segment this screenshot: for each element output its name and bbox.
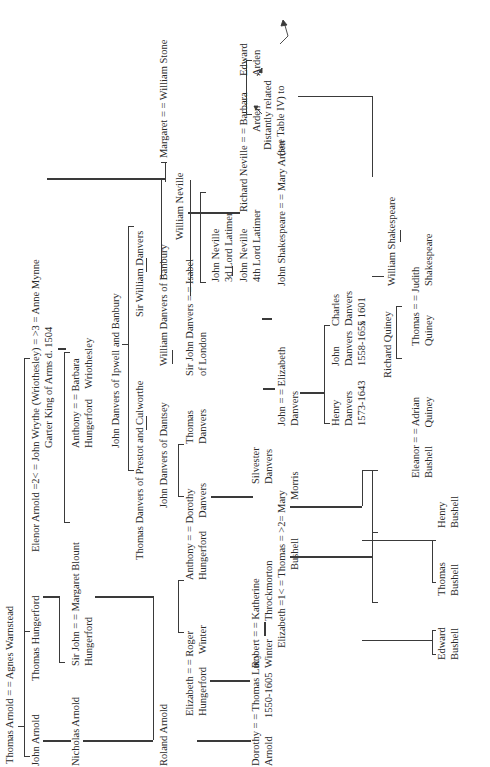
connector <box>372 276 384 277</box>
node-richard-quiney: Richard Quiney <box>382 311 395 378</box>
sibling-bracket <box>396 306 397 358</box>
node-henry-danvers-dates: 1573-1643 <box>356 381 369 427</box>
sibling-bracket <box>324 325 325 423</box>
node-thomas-bushell-surname: Bushell <box>289 538 302 570</box>
connector <box>396 306 402 307</box>
node-charles-danvers: Charles <box>330 294 343 326</box>
connector <box>362 470 378 471</box>
arrow-icons <box>0 0 490 767</box>
sibling-bracket <box>432 630 433 654</box>
connector <box>432 582 436 583</box>
node-henry-bushell-surname: Bushell <box>449 496 462 528</box>
connector <box>290 506 362 508</box>
node-thomas-bushell: Thomas <box>436 562 449 596</box>
node-henry-bushell: Henry <box>436 502 449 528</box>
sibling-bracket <box>432 540 433 582</box>
node-henry-danvers: Henry <box>330 400 343 426</box>
node-mary-morris-surname: Morris <box>289 471 302 500</box>
node-thomas-quiney-judith: Thomas = = Judith <box>410 267 423 346</box>
connector <box>362 640 432 641</box>
node-john-shakespeare-mary-arden: John Shakespeare = = Mary Arden <box>276 140 289 286</box>
connector <box>372 602 378 603</box>
node-judith-shakespeare: Shakespeare <box>423 234 436 286</box>
connector <box>362 540 432 541</box>
connector <box>372 96 373 176</box>
sibling-bracket <box>372 532 373 602</box>
node-thomas-quiney-surname: Quiney <box>423 315 436 346</box>
node-john-danvers-dates: 1558-1655 <box>356 321 369 367</box>
node-charles-danvers-note: x 1601 <box>356 297 369 326</box>
node-john-danvers-surname: Danvers <box>289 391 302 426</box>
node-william-shakespeare: William Shakespeare <box>386 197 399 286</box>
connector <box>290 556 372 558</box>
node-john-danvers-elizabeth: John = = Elizabeth <box>276 347 289 426</box>
sibling-bracket <box>362 470 363 506</box>
connector <box>400 230 401 242</box>
connector <box>396 358 402 359</box>
genealogy-diagram: Thomas Arnold = = Agnes Warnstead John A… <box>0 0 490 767</box>
connector <box>300 392 324 394</box>
node-henry-danvers-surname: Danvers <box>343 391 356 426</box>
node-edward-bushell: Edward <box>436 627 449 660</box>
connector <box>372 176 373 177</box>
connector <box>372 532 378 533</box>
connector <box>432 540 436 541</box>
node-elizabeth-thomas-bushell-mary-morris: Elizabeth =1< = Thomas = >2= Mary <box>276 490 289 648</box>
node-edward-bushell-surname: Bushell <box>449 628 462 660</box>
node-eleanor-adrian-surnames: Bushell Quiney <box>423 397 436 478</box>
connector <box>432 654 436 655</box>
node-eleanor-bushell-adrian-quiney: Eleanor = = Adrian <box>410 397 423 478</box>
connector <box>432 630 436 631</box>
node-john-danvers: John <box>330 346 343 366</box>
node-charles-danvers-surname: Danvers <box>343 291 356 326</box>
connector <box>298 96 372 97</box>
node-john-danvers-surname-2: Danvers <box>343 331 356 366</box>
node-thomas-bushell-surname-2: Bushell <box>449 564 462 596</box>
